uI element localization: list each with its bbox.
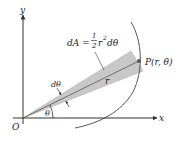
area-wedge bbox=[23, 51, 143, 118]
origin-label: O bbox=[12, 122, 20, 132]
da-lhs: dA = bbox=[67, 38, 90, 48]
theta-label: θ bbox=[45, 109, 50, 118]
da-fraction-denominator: 2 bbox=[91, 42, 97, 50]
point-p-label: P(r, θ) bbox=[144, 57, 173, 67]
polar-area-element-diagram: y x O dA = 1 2 r 2 dθ P(r, θ) r dθ θ bbox=[0, 0, 189, 142]
da-fraction-numerator: 1 bbox=[92, 32, 96, 40]
point-p bbox=[137, 59, 141, 63]
da-leader-line bbox=[95, 52, 104, 70]
dtheta-arrow-inner bbox=[66, 101, 69, 107]
da-dtheta: dθ bbox=[107, 38, 119, 48]
dtheta-arrow-outer bbox=[57, 88, 61, 95]
radius-label: r bbox=[105, 76, 110, 86]
radius-line bbox=[23, 61, 139, 118]
y-axis-label: y bbox=[19, 5, 26, 15]
dtheta-label: dθ bbox=[51, 80, 61, 89]
x-axis-label: x bbox=[159, 113, 164, 123]
